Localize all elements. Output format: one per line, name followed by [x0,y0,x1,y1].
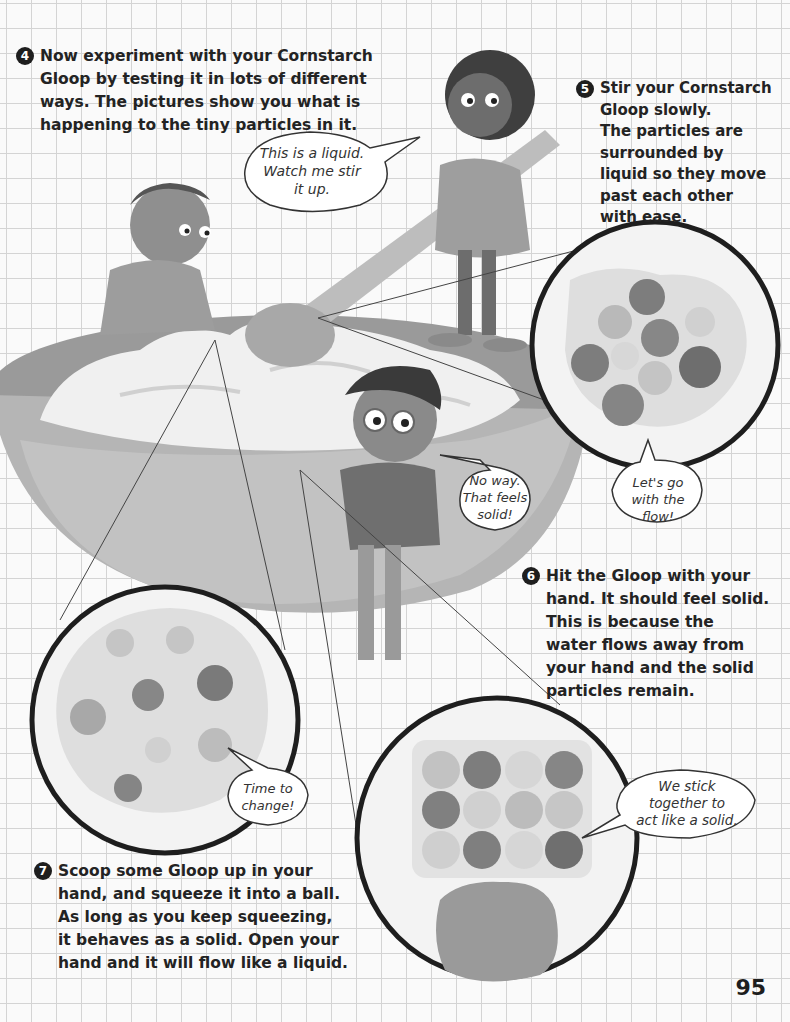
speech-bubble-stick: We stick together to act like a solid. [622,778,752,829]
boy-leaning [100,183,215,335]
step-number-badge: 5 [576,80,594,98]
boy-with-glasses [340,366,441,660]
squeezed-gloop-ball [436,882,558,982]
speech-bubble-change: Time to change! [232,780,304,814]
hit-particles-lens [357,698,637,981]
step-text-line: happening to the tiny particles in it. [40,114,373,137]
speech-bubble-solid: No way. That feels solid! [455,472,535,523]
bubble-line: Let's go [618,474,698,491]
bubble-line: This is a liquid. [252,144,372,162]
bubble-line: Time to [232,780,304,797]
bubble-line: solid! [455,506,535,523]
step-text-line: The particles are [600,121,772,143]
step-text-line: past each other [600,186,772,208]
step-text-line: surrounded by [600,143,772,165]
step-number-badge: 4 [16,47,34,65]
step-text-line: it behaves as a solid. Open your [58,929,348,952]
step-text-line: Scoop some Gloop up in your [58,860,348,883]
step-text-line: This is because the [546,611,769,634]
step-text-line: particles remain. [546,680,769,703]
bubble-line: flow! [618,508,698,525]
step-number-badge: 7 [34,862,52,880]
step-text-line: hand. It should feel solid. [546,588,769,611]
step-text-line: water flows away from [546,634,769,657]
step-text-line: with ease. [600,207,772,229]
speech-bubble-flow: Let's go with the flow! [618,474,698,525]
bubble-line: Watch me stir [252,162,372,180]
girl-stirring [428,50,535,352]
step-text-line: ways. The pictures show you what is [40,91,373,114]
step-number-badge: 6 [522,567,540,585]
page-number: 95 [735,975,766,1000]
stirring-particles-lens [532,222,778,468]
step-text-line: As long as you keep squeezing, [58,906,348,929]
bubble-line: act like a solid. [622,812,752,829]
step-text-line: your hand and the solid [546,657,769,680]
step-text-line: Gloop slowly. [600,100,772,122]
step-5: 5 Stir your Cornstarch Gloop slowly. The… [600,78,772,229]
bubble-line: That feels [455,489,535,506]
bubble-line: No way. [455,472,535,489]
step-text-line: hand and it will flow like a liquid. [58,952,348,975]
bubble-line: We stick [622,778,752,795]
step-text-line: liquid so they move [600,164,772,186]
step-text-line: Gloop by testing it in lots of different [40,68,373,91]
step-4: 4 Now experiment with your Cornstarch Gl… [40,45,373,137]
bubble-line: together to [622,795,752,812]
step-text-line: Stir your Cornstarch [600,78,772,100]
bubble-line: change! [232,797,304,814]
step-7: 7 Scoop some Gloop up in your hand, and … [58,860,348,975]
speech-bubble-liquid: This is a liquid. Watch me stir it up. [252,144,372,198]
step-6: 6 Hit the Gloop with your hand. It shoul… [546,565,769,703]
step-text-line: hand, and squeeze it into a ball. [58,883,348,906]
bubble-line: it up. [252,180,372,198]
step-text-line: Hit the Gloop with your [546,565,769,588]
step-text-line: Now experiment with your Cornstarch [40,45,373,68]
bubble-line: with the [618,491,698,508]
